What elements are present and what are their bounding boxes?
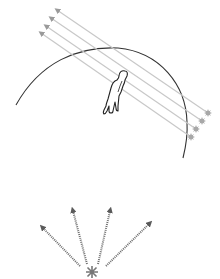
star-icon [205, 110, 212, 117]
top-panel [16, 10, 212, 158]
parallel-ray-2 [51, 18, 202, 121]
diverging-rays [43, 211, 149, 266]
parallel-ray-1 [57, 10, 208, 113]
star-icon [188, 134, 195, 141]
diverging-ray-4 [106, 224, 149, 266]
point-source-icon [86, 266, 98, 278]
star-icon [199, 118, 206, 125]
diverging-ray-3 [98, 211, 110, 264]
bottom-panel [43, 211, 149, 278]
star-icon [193, 126, 200, 133]
person-figure-icon [103, 71, 127, 114]
diverging-ray-2 [73, 211, 87, 264]
diverging-ray-1 [43, 228, 80, 266]
diagram-canvas [0, 0, 220, 279]
